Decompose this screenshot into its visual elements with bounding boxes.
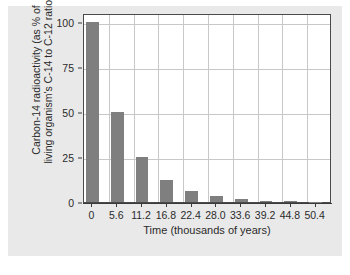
- x-axis-tick-mark: [240, 203, 241, 207]
- bar: [284, 201, 297, 202]
- bar: [136, 157, 149, 202]
- y-axis-tick-mark: [78, 23, 82, 24]
- gridline-vertical: [158, 15, 159, 202]
- x-axis-tick-mark: [91, 203, 92, 207]
- x-axis-tick-mark: [215, 203, 216, 207]
- x-axis-tick-mark: [141, 203, 142, 207]
- x-axis-tick-mark: [315, 203, 316, 207]
- bar: [210, 196, 223, 202]
- gridline-vertical: [258, 15, 259, 202]
- y-axis-tick-label: 25: [50, 152, 74, 164]
- gridline-vertical: [183, 15, 184, 202]
- y-axis-tick-label: 0: [50, 197, 74, 209]
- x-axis-tick-mark: [116, 203, 117, 207]
- x-axis-tick-mark: [191, 203, 192, 207]
- bar: [86, 22, 99, 202]
- x-axis-tick-label: 50.4: [298, 209, 332, 221]
- gridline-vertical: [208, 15, 209, 202]
- y-axis-tick-mark: [78, 203, 82, 204]
- y-axis-tick-mark: [78, 68, 82, 69]
- y-axis-tick-mark: [78, 113, 82, 114]
- bar: [185, 191, 198, 202]
- x-axis-tick-mark: [265, 203, 266, 207]
- x-axis-line: [83, 203, 332, 204]
- gridline-vertical: [109, 15, 110, 202]
- plot-area: [83, 14, 331, 203]
- gridline-vertical: [282, 15, 283, 202]
- chart-figure: Carbon-14 radioactivity (as % of living …: [0, 0, 350, 275]
- x-axis-title: Time (thousands of years): [83, 224, 331, 236]
- y-axis-tick-label: 75: [50, 62, 74, 74]
- x-axis-tick-mark: [290, 203, 291, 207]
- bar: [235, 199, 248, 202]
- bar: [260, 201, 273, 202]
- bar: [160, 180, 173, 203]
- gridline-vertical: [307, 15, 308, 202]
- y-axis-tick-label: 50: [50, 107, 74, 119]
- x-axis-tick-mark: [166, 203, 167, 207]
- y-axis-tick-label: 100: [50, 17, 74, 29]
- y-axis-tick-mark: [78, 158, 82, 159]
- gridline-vertical: [134, 15, 135, 202]
- gridline-vertical: [233, 15, 234, 202]
- gridline-horizontal: [84, 69, 330, 70]
- bar: [111, 112, 124, 202]
- gridline-horizontal: [84, 24, 330, 25]
